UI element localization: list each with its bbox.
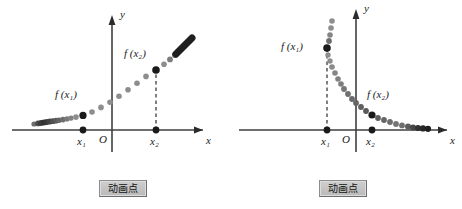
label-x2: x₂	[150, 136, 159, 147]
label-fx1: f (x₁)	[281, 41, 303, 52]
label-x-axis: x	[206, 135, 211, 146]
animation-point-button[interactable]: 动画点	[319, 180, 367, 197]
label-fx1: f (x₁)	[55, 89, 77, 100]
panel-decreasing-function: f (x₁) f (x₂) x₁ O x₂ x y 动画点	[231, 0, 462, 209]
animation-point-button-label: 动画点	[108, 184, 138, 194]
label-fx2: f (x₂)	[367, 89, 389, 100]
panel-increasing-function: f (x₁) f (x₂) x₁ x₂ O x y 动画点	[0, 0, 231, 209]
point-x2	[153, 127, 160, 134]
decreasing-function-plot	[231, 0, 462, 209]
label-x1: x₁	[321, 136, 330, 147]
label-origin: O	[99, 134, 107, 145]
x-axis	[12, 127, 203, 134]
point-x1	[324, 127, 331, 134]
increasing-function-plot	[0, 0, 231, 209]
label-y-axis: y	[364, 3, 369, 14]
y-axis	[109, 15, 116, 152]
label-y-axis: y	[120, 9, 125, 20]
label-x1: x₁	[77, 136, 86, 147]
label-x-axis: x	[450, 135, 455, 146]
animation-point-button[interactable]: 动画点	[99, 180, 147, 197]
animation-point-button-label: 动画点	[328, 184, 358, 194]
curve-point-trail	[323, 18, 431, 132]
label-origin: O	[342, 134, 350, 145]
math-figure-pair: f (x₁) f (x₂) x₁ x₂ O x y 动画点	[0, 0, 462, 209]
label-x2: x₂	[366, 136, 375, 147]
point-x2	[369, 127, 376, 134]
label-fx2: f (x₂)	[124, 48, 146, 59]
point-x1	[80, 127, 87, 134]
